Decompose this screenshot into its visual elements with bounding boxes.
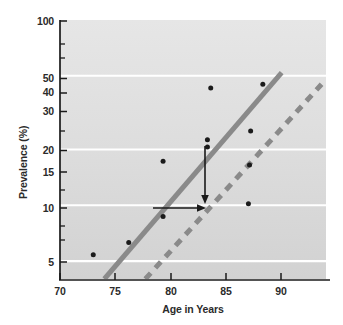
chart-figure: 100 50 40 30 20 15 10 5 70 75 80 85 90 P… (0, 0, 343, 325)
data-point (126, 240, 131, 245)
data-point (161, 214, 166, 219)
x-tick-label-80: 80 (157, 285, 185, 297)
data-point (205, 145, 210, 150)
y-tick-label-10: 10 (14, 202, 54, 214)
prevalence-vs-age-scatter-plot (0, 0, 343, 325)
data-point (246, 201, 251, 206)
y-tick-label-40: 40 (14, 86, 54, 98)
y-tick-label-100: 100 (14, 15, 54, 27)
y-tick-label-50: 50 (14, 72, 54, 84)
data-point (205, 137, 210, 142)
data-point (91, 252, 96, 257)
data-point (248, 128, 253, 133)
y-tick-label-5: 5 (14, 256, 54, 268)
y-axis-label: Prevalence (%) (17, 99, 29, 199)
data-point (260, 82, 265, 87)
x-tick-label-75: 75 (101, 285, 129, 297)
data-point (208, 85, 213, 90)
x-axis-label: Age in Years (113, 303, 273, 315)
data-point (161, 159, 166, 164)
x-tick-label-85: 85 (212, 285, 240, 297)
data-point (247, 162, 252, 167)
x-tick-label-90: 90 (267, 285, 295, 297)
x-tick-label-70: 70 (46, 285, 74, 297)
